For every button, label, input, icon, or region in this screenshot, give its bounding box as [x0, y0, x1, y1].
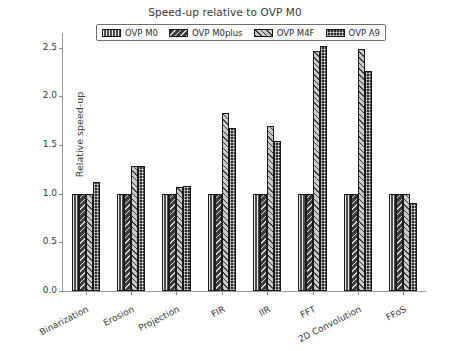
chart-title: Speed-up relative to OVP M0: [0, 6, 450, 18]
bar-ovp-m0-ffos: [389, 194, 396, 291]
bar-ovp-m0plus-projection: [169, 194, 176, 291]
bar-ovp-m0-projection: [162, 194, 169, 291]
y-axis-tick-mark: [59, 242, 63, 243]
x-axis-tick-mark: [222, 291, 223, 295]
x-axis-tick-mark: [403, 291, 404, 295]
legend-swatch-icon-ovp-m0plus: [169, 29, 188, 37]
legend-item-ovp-a9: OVP A9: [326, 28, 380, 38]
y-axis-tick-mark: [59, 48, 63, 49]
legend-item-ovp-m0plus: OVP M0plus: [169, 28, 243, 38]
bar-ovp-a9-fft: [320, 46, 327, 291]
x-axis-tick-mark: [267, 291, 268, 295]
bar-ovp-m0-binarization: [72, 194, 79, 291]
y-axis-tick-mark: [59, 291, 63, 292]
bar-ovp-m4f-iir: [267, 126, 274, 291]
bar-ovp-m4f-fir: [222, 113, 229, 291]
x-axis-tick-mark: [131, 291, 132, 295]
legend-label-ovp-m0: OVP M0: [125, 28, 158, 38]
x-axis-tick-mark: [313, 291, 314, 295]
bar-ovp-m4f-binarization: [86, 194, 93, 291]
legend-swatch-icon-ovp-m0: [102, 29, 121, 37]
bar-ovp-m0-fft: [298, 194, 305, 291]
bar-ovp-m0-iir: [253, 194, 260, 291]
bar-ovp-m0plus-fft: [306, 194, 313, 291]
y-axis-tick-mark: [59, 194, 63, 195]
bar-ovp-m4f-2d-convolution: [358, 49, 365, 291]
bar-ovp-m0-fir: [208, 194, 215, 291]
plot-area: Relative speed-up 0.00.51.01.52.02.5Bina…: [62, 33, 426, 292]
x-axis-tick-label-text: FFoS: [384, 304, 407, 323]
bar-chart-figure: Speed-up relative to OVP M0 OVP M0 OVP M…: [0, 0, 450, 351]
legend-swatch-icon-ovp-m4f: [254, 29, 273, 37]
bar-ovp-m4f-ffos: [403, 194, 410, 291]
bar-ovp-a9-iir: [274, 141, 281, 291]
bar-ovp-m0plus-ffos: [396, 194, 403, 291]
x-axis-tick-mark: [358, 291, 359, 295]
legend-swatch-icon-ovp-a9: [326, 29, 345, 37]
y-axis-tick-label: 2.0: [43, 90, 57, 100]
bar-ovp-m0plus-iir: [260, 194, 267, 291]
y-axis-tick-label: 0.0: [43, 285, 57, 295]
chart-legend: OVP M0 OVP M0plus OVP M4F OVP A9: [96, 24, 386, 41]
bar-ovp-a9-fir: [229, 128, 236, 291]
bar-ovp-m4f-erosion: [131, 166, 138, 291]
y-axis-tick-mark: [59, 145, 63, 146]
bar-ovp-a9-binarization: [93, 182, 100, 291]
x-axis-tick-label: FFoS: [263, 297, 403, 316]
y-axis-tick-mark: [59, 96, 63, 97]
y-axis-tick-label: 1.0: [43, 188, 57, 198]
bar-ovp-m0plus-erosion: [124, 194, 131, 291]
bar-ovp-a9-2d-convolution: [365, 71, 372, 291]
legend-label-ovp-m0plus: OVP M0plus: [192, 28, 243, 38]
bar-ovp-m0-2d-convolution: [344, 194, 351, 291]
bar-ovp-a9-ffos: [410, 203, 417, 291]
bar-ovp-m0plus-binarization: [79, 194, 86, 291]
x-axis-tick-mark: [86, 291, 87, 295]
bar-ovp-m0-erosion: [117, 194, 124, 291]
bar-ovp-a9-erosion: [138, 166, 145, 291]
bar-ovp-a9-projection: [183, 186, 190, 291]
bar-ovp-m0plus-2d-convolution: [351, 194, 358, 291]
legend-item-ovp-m4f: OVP M4F: [254, 28, 315, 38]
bar-ovp-m0plus-fir: [215, 194, 222, 291]
legend-item-ovp-m0: OVP M0: [102, 28, 158, 38]
x-axis-tick-mark: [176, 291, 177, 295]
legend-label-ovp-m4f: OVP M4F: [277, 28, 315, 38]
y-axis-tick-label: 1.5: [43, 139, 57, 149]
bar-ovp-m4f-projection: [176, 187, 183, 291]
plot-inner: 0.00.51.01.52.02.5BinarizationErosionPro…: [63, 33, 426, 291]
y-axis-tick-label: 2.5: [43, 42, 57, 52]
legend-label-ovp-a9: OVP A9: [349, 28, 380, 38]
bar-ovp-m4f-fft: [313, 51, 320, 291]
y-axis-tick-label: 0.5: [43, 236, 57, 246]
